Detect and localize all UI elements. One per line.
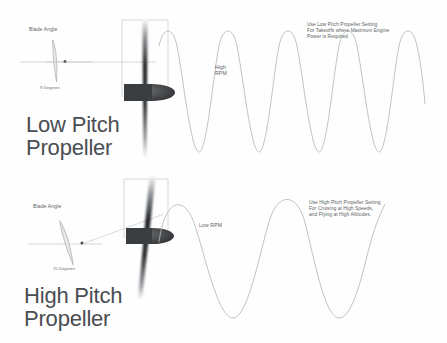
callout-low-pitch: Use Low Pitch Propeller Setting For Take…	[307, 22, 389, 40]
blade-angle-title-top: Blade Angle	[29, 26, 57, 32]
blade-angle-value-top: 9 Degrees	[22, 85, 78, 90]
callout-high-pitch: Use High Pitch Propeller Setting For Cru…	[309, 200, 380, 218]
blade-angle-title-bottom: Blade Angle	[33, 203, 61, 209]
diagram-canvas: Blade Angle 9 Degrees	[0, 0, 447, 343]
rpm-label-low: Low RPM	[199, 222, 222, 228]
heading-high-pitch: High Pitch Propeller	[24, 284, 122, 330]
blade-angle-value-bottom: 15 Degrees	[34, 266, 94, 271]
heading-low-pitch: Low Pitch Propeller	[26, 113, 120, 159]
waveform-high-rpm	[159, 20, 439, 170]
rpm-label-high: High RPM	[215, 64, 227, 77]
waveform-low-rpm	[159, 190, 439, 336]
